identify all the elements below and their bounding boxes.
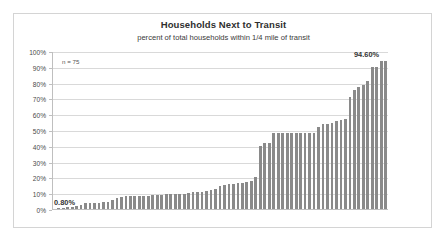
bar	[362, 85, 365, 210]
bar	[178, 194, 181, 210]
bar	[366, 81, 369, 210]
bar	[223, 185, 226, 210]
bar	[210, 190, 213, 210]
bar	[254, 177, 257, 210]
bar	[160, 195, 163, 210]
y-axis-tick-label: 80%	[12, 80, 46, 87]
plot-area	[52, 52, 388, 210]
bar	[259, 146, 262, 210]
y-axis-tick-label: 20%	[12, 175, 46, 182]
bar	[89, 203, 92, 210]
bar	[62, 208, 65, 210]
bar	[138, 196, 141, 210]
bar	[371, 67, 374, 210]
bar	[57, 208, 60, 210]
bar	[192, 192, 195, 210]
bar	[125, 196, 128, 210]
bar	[219, 186, 222, 210]
y-axis-tick-label: 0%	[12, 207, 46, 214]
bar	[344, 119, 347, 210]
bar	[80, 205, 83, 210]
bar	[375, 67, 378, 210]
y-axis-tick-mark	[49, 178, 52, 179]
bar	[156, 195, 159, 210]
bar	[129, 196, 132, 210]
bar	[183, 194, 186, 210]
y-axis-tick-mark	[49, 84, 52, 85]
bar	[84, 203, 87, 210]
bar	[133, 196, 136, 210]
bar	[272, 133, 275, 210]
y-axis-tick-mark	[49, 131, 52, 132]
y-axis-tick-mark	[49, 163, 52, 164]
y-axis-tick-label: 90%	[12, 64, 46, 71]
y-axis-tick-label: 10%	[12, 191, 46, 198]
bar	[53, 209, 56, 210]
y-axis-tick-label: 30%	[12, 159, 46, 166]
bar	[201, 192, 204, 210]
bar	[66, 207, 69, 210]
bar	[205, 191, 208, 210]
bar	[380, 61, 383, 210]
y-axis-tick-mark	[49, 147, 52, 148]
bar	[317, 127, 320, 210]
bar	[174, 194, 177, 210]
bar	[245, 182, 248, 210]
first-value-label: 0.80%	[54, 198, 75, 207]
bar	[151, 195, 154, 210]
bar	[295, 133, 298, 210]
bar	[277, 133, 280, 210]
bar	[340, 120, 343, 210]
bar	[142, 196, 145, 210]
bar	[75, 206, 78, 210]
bar	[228, 184, 231, 210]
bar	[322, 124, 325, 210]
chart-title: Households Next to Transit	[14, 19, 433, 31]
bar	[196, 192, 199, 210]
bar	[98, 203, 101, 210]
bar	[120, 197, 123, 210]
chart-frame: Households Next to Transit percent of to…	[13, 13, 432, 228]
bar	[111, 200, 114, 210]
bar	[232, 184, 235, 210]
last-value-label: 94.60%	[354, 50, 379, 59]
y-axis-tick-mark	[49, 68, 52, 69]
bar	[384, 61, 387, 210]
chart-title-block: Households Next to Transit percent of to…	[14, 19, 433, 43]
bar	[349, 97, 352, 210]
sample-size-annotation: n = 75	[62, 58, 79, 65]
bar	[237, 183, 240, 210]
bar	[299, 133, 302, 210]
bar	[107, 202, 110, 210]
y-axis-tick-label: 70%	[12, 96, 46, 103]
bar	[165, 194, 168, 210]
bar	[102, 202, 105, 210]
bar	[214, 189, 217, 210]
bar	[304, 133, 307, 210]
y-axis-tick-mark	[49, 115, 52, 116]
chart-subtitle: percent of total households within 1/4 m…	[14, 32, 433, 43]
bar	[116, 198, 119, 210]
y-axis-tick-mark	[49, 52, 52, 53]
y-axis-tick-label: 50%	[12, 128, 46, 135]
bar	[326, 124, 329, 210]
bar	[308, 133, 311, 210]
bar	[241, 183, 244, 210]
y-axis-tick-mark	[49, 194, 52, 195]
bar	[290, 133, 293, 210]
y-axis-tick-label: 100%	[12, 49, 46, 56]
bar	[263, 143, 266, 210]
bar	[147, 196, 150, 210]
bar	[169, 194, 172, 210]
y-axis-tick-mark	[49, 99, 52, 100]
bar	[281, 133, 284, 210]
bar	[93, 203, 96, 210]
y-axis-tick-label: 60%	[12, 112, 46, 119]
bar	[335, 121, 338, 210]
y-axis-tick-mark	[49, 210, 52, 211]
bar	[286, 133, 289, 210]
bar	[71, 207, 74, 210]
bar	[250, 181, 253, 210]
bar	[268, 143, 271, 210]
bar	[353, 90, 356, 210]
